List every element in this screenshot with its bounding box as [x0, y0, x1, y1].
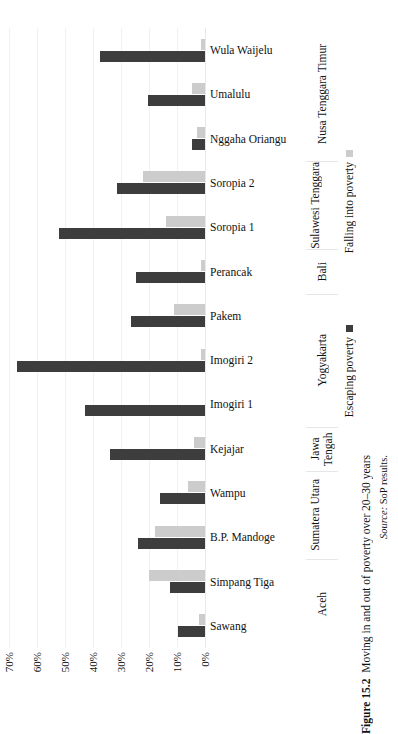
bar-group [0, 205, 205, 249]
bar-group [0, 559, 205, 603]
chart-legend: Falling into povertyEscaping poverty [338, 150, 360, 480]
legend-swatch-falling [346, 150, 353, 157]
bar-group [0, 117, 205, 161]
category-label: B.P. Mandoge [205, 531, 310, 543]
category-label: Wampu [205, 487, 310, 499]
axis-tick-label: 70% [3, 652, 15, 672]
axis-tick-10: 10% [170, 652, 184, 690]
axis-tick-50: 50% [58, 652, 72, 690]
region-label-text: Sumatera Utara [309, 479, 335, 551]
bar-falling-into-poverty [194, 437, 205, 448]
legend-item-escaping[interactable]: Escaping poverty [338, 325, 360, 417]
region-separator [306, 249, 338, 250]
region-label-text: Nusa Tenggara Timur [316, 44, 329, 144]
bar-escaping-poverty [138, 538, 205, 549]
region-label-text: Yogyakarta [316, 334, 329, 387]
category-label: Sawang [205, 620, 310, 632]
region-label-text: Jawa Tengah [309, 427, 335, 471]
category-label: Kejajar [205, 443, 310, 455]
bar-group [0, 161, 205, 205]
bar-escaping-poverty [148, 95, 205, 106]
bar-group [0, 382, 205, 426]
bar-escaping-poverty [117, 183, 205, 194]
bar-falling-into-poverty [192, 83, 205, 94]
axis-tick-20: 20% [142, 652, 156, 690]
bar-escaping-poverty [170, 582, 205, 593]
region-separator [306, 471, 338, 472]
bar-escaping-poverty [100, 51, 205, 62]
bar-escaping-poverty [85, 405, 205, 416]
category-label: Wula Waijelu [205, 44, 310, 56]
category-label: Nggaha Oriangu [205, 133, 310, 145]
bar-group [0, 72, 205, 116]
region-label-text: Bali [316, 262, 329, 281]
category-label: Imogiri 1 [205, 398, 310, 410]
category-label: Imogiri 2 [205, 354, 310, 366]
bar-group [0, 604, 205, 648]
bar-falling-into-poverty [174, 304, 205, 315]
region-label: Sumatera Utara [306, 471, 338, 560]
axis-tick-70: 70% [2, 652, 16, 690]
axis-tick-60: 60% [30, 652, 44, 690]
legend-label: Falling into poverty [343, 162, 355, 253]
value-axis-ticks: 70%60%50%40%30%20%10%0% [0, 652, 215, 692]
figure-number: Figure 15.2 [360, 679, 372, 734]
figure-caption: Figure 15.2 Moving in and out of poverty… [358, 455, 398, 693]
axis-tick-0: 0% [198, 652, 212, 690]
chart-plot-area [0, 28, 205, 648]
bar-group [0, 338, 205, 382]
category-axis-labels: Wula WaijeluUmaluluNggaha OrianguSoropia… [205, 28, 310, 648]
caption-title-line: Figure 15.2 Moving in and out of poverty… [360, 455, 372, 734]
legend-item-falling[interactable]: Falling into poverty [338, 150, 360, 253]
bar-group [0, 515, 205, 559]
bar-falling-into-poverty [188, 481, 205, 492]
region-group-labels: Nusa Tenggara TimurSulawesi TenggaraBali… [306, 28, 338, 648]
bar-escaping-poverty [136, 272, 205, 283]
category-label: Umalulu [205, 88, 310, 100]
bar-group [0, 427, 205, 471]
region-label: Aceh [306, 559, 338, 648]
region-label: Jawa Tengah [306, 427, 338, 471]
region-label-text: Sulawesi Tenggara [309, 162, 335, 249]
bar-falling-into-poverty [149, 570, 205, 581]
bar-escaping-poverty [178, 626, 205, 637]
bar-falling-into-poverty [143, 171, 205, 182]
axis-tick-label: 60% [31, 652, 43, 672]
axis-tick-40: 40% [86, 652, 100, 690]
region-separator [306, 427, 338, 428]
axis-tick-30: 30% [114, 652, 128, 690]
region-label: Yogyakarta [306, 294, 338, 427]
category-label: Soropia 2 [205, 177, 310, 189]
axis-tick-label: 20% [143, 652, 155, 672]
bar-group [0, 294, 205, 338]
category-label: Pakem [205, 310, 310, 322]
bar-escaping-poverty [17, 361, 205, 372]
bar-falling-into-poverty [197, 127, 205, 138]
region-label: Sulawesi Tenggara [306, 161, 338, 250]
category-label: Perancak [205, 266, 310, 278]
bar-falling-into-poverty [155, 526, 205, 537]
source-label: Source: [378, 507, 389, 539]
axis-tick-label: 40% [87, 652, 99, 672]
bar-escaping-poverty [131, 316, 205, 327]
axis-tick-label: 0% [199, 652, 211, 667]
bar-group [0, 249, 205, 293]
figure-title: Moving in and out of poverty over 20–30 … [360, 455, 372, 673]
legend-swatch-escaping [346, 325, 353, 332]
region-separator [306, 294, 338, 295]
region-label-text: Aceh [316, 592, 329, 616]
bar-escaping-poverty [192, 139, 205, 150]
bar-escaping-poverty [59, 228, 205, 239]
bar-escaping-poverty [160, 493, 205, 504]
region-label: Nusa Tenggara Timur [306, 28, 338, 161]
source-text: SoP results. [378, 455, 389, 507]
bar-falling-into-poverty [166, 216, 205, 227]
region-separator [306, 559, 338, 560]
axis-tick-label: 30% [115, 652, 127, 672]
bar-group [0, 28, 205, 72]
bar-group [0, 471, 205, 515]
region-separator [306, 161, 338, 162]
category-label: Simpang Tiga [205, 576, 310, 588]
region-label: Bali [306, 249, 338, 293]
